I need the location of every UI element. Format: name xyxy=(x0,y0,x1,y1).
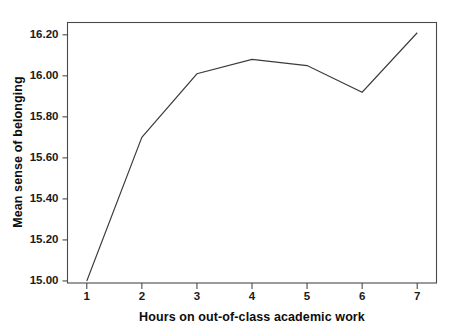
data-series-line xyxy=(87,33,417,281)
x-axis-title: Hours on out-of-class academic work xyxy=(139,310,365,324)
x-tick-label: 4 xyxy=(249,290,256,302)
x-tick-label: 3 xyxy=(194,290,200,302)
y-axis-title: Mean sense of belonging xyxy=(11,76,25,228)
y-tick-label: 16.00 xyxy=(30,69,59,81)
y-tick-label: 15.40 xyxy=(30,192,59,204)
y-tick-label: 15.80 xyxy=(30,110,59,122)
x-tick-label: 5 xyxy=(304,290,311,302)
x-axis-ticks: 1234567 xyxy=(84,283,421,302)
chart-figure: 15.0015.2015.4015.6015.8016.0016.20 1234… xyxy=(0,0,455,331)
y-tick-label: 15.20 xyxy=(30,233,59,245)
x-tick-label: 7 xyxy=(414,290,420,302)
line-chart: 15.0015.2015.4015.6015.8016.0016.20 1234… xyxy=(0,0,455,331)
x-tick-label: 6 xyxy=(359,290,365,302)
y-tick-label: 16.20 xyxy=(30,28,59,40)
y-axis-ticks: 15.0015.2015.4015.6015.8016.0016.20 xyxy=(30,28,68,286)
plot-frame xyxy=(68,23,437,284)
y-tick-label: 15.60 xyxy=(30,151,59,163)
x-tick-label: 2 xyxy=(139,290,145,302)
x-tick-label: 1 xyxy=(84,290,91,302)
y-tick-label: 15.00 xyxy=(30,274,59,286)
